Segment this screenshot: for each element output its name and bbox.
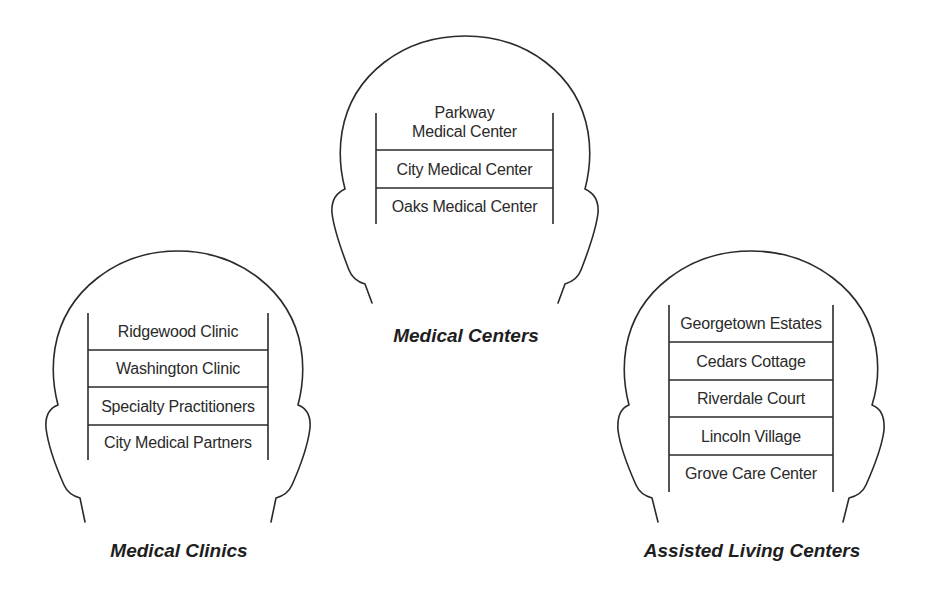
ladder-item: Ridgewood Clinic <box>88 313 268 350</box>
group-label-medical-clinics: Medical Clinics <box>110 540 247 562</box>
group-label-medical-centers: Medical Centers <box>393 325 539 347</box>
ladder-medical-centers: Parkway Medical Center City Medical Cent… <box>376 94 553 224</box>
ladder-item: City Medical Partners <box>88 425 268 460</box>
ladder-item: Parkway Medical Center <box>376 94 553 150</box>
ladder-item: Washington Clinic <box>88 350 268 387</box>
group-label-assisted-living-centers: Assisted Living Centers <box>644 540 860 562</box>
diagram-canvas <box>0 0 927 596</box>
ladder-item: Lincoln Village <box>669 417 833 455</box>
ladder-medical-clinics: Ridgewood Clinic Washington Clinic Speci… <box>88 313 268 460</box>
ladder-item: Riverdale Court <box>669 380 833 417</box>
ladder-item: Cedars Cottage <box>669 342 833 380</box>
ladder-item: Grove Care Center <box>669 455 833 492</box>
ladder-item: City Medical Center <box>376 150 553 188</box>
ladder-item: Specialty Practitioners <box>88 387 268 425</box>
ladder-item: Georgetown Estates <box>669 305 833 342</box>
ladder-assisted-living-centers: Georgetown Estates Cedars Cottage Riverd… <box>669 305 833 492</box>
ladder-item: Oaks Medical Center <box>376 188 553 224</box>
